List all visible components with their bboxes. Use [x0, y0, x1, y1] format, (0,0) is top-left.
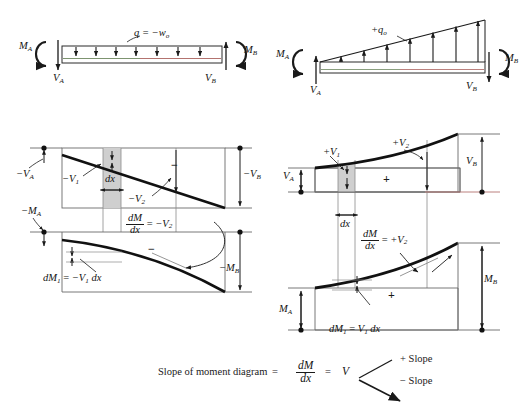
- moment-right-dm1-relation: dM1 = V1 dx: [329, 323, 380, 336]
- shear-left-dx-label: dx: [105, 173, 115, 184]
- shear-right-dx-label: dx: [340, 218, 350, 229]
- beam-left-load-label: q = −wo: [134, 27, 169, 40]
- figure-canvas: q = −wo MA MB VA VB +qo MA MB VA VB −VA …: [0, 0, 523, 419]
- moment-right-slope-relation: dMdx = +V2: [361, 229, 407, 251]
- shear-left-vb-label: −VB: [243, 168, 261, 181]
- shear-left-v2-label: −V2: [128, 193, 145, 206]
- beam-left-shear-b-label: VB: [205, 72, 216, 85]
- shear-left-sign: −: [171, 158, 178, 173]
- caption-plus-slope: + Slope: [400, 353, 432, 364]
- beam-right-group: [293, 20, 509, 84]
- beam-right-moment-b-label: MB: [505, 52, 518, 65]
- beam-left-moment-a-label: MA: [19, 40, 32, 53]
- moment-left-slope-relation: dMdx = −V2: [126, 213, 172, 235]
- caption-equals-1: =: [272, 366, 278, 377]
- beam-right-shear-b-label: VB: [466, 80, 477, 93]
- shear-left-v1-label: −V1: [62, 173, 79, 186]
- caption-result: V: [342, 365, 349, 377]
- caption-equals-2: =: [325, 366, 331, 377]
- moment-right-ma-label: MA: [279, 303, 292, 316]
- shear-right-va-label: VA: [283, 170, 294, 183]
- beam-left-moment-b-label: MB: [244, 44, 257, 57]
- diagram-vector-layer: [0, 0, 523, 419]
- shear-right-vb-label: VB: [466, 155, 477, 168]
- moment-right-sign: +: [388, 288, 395, 303]
- caption-slope-arrows: [359, 360, 400, 401]
- caption-minus-slope: − Slope: [400, 375, 432, 386]
- beam-left-shear-a-label: VA: [53, 72, 64, 85]
- caption-text: Slope of moment diagram: [158, 366, 267, 377]
- shear-right-sign: +: [383, 172, 390, 187]
- moment-left-mb-label: −MB: [219, 262, 239, 275]
- caption-fraction: dMdx: [296, 360, 315, 384]
- shear-right-v2-label: +V2: [392, 137, 409, 150]
- moment-left-sign: −: [148, 242, 155, 257]
- shear-left-va-label: −VA: [16, 168, 34, 181]
- beam-right-load-label: +qo: [371, 24, 387, 37]
- moment-left-ma-label: −MA: [21, 205, 41, 218]
- moment-right-mb-label: MB: [484, 273, 497, 286]
- beam-right-shear-a-label: VA: [310, 84, 321, 97]
- moment-left-dm1-relation: dM1 = −V1 dx: [43, 272, 101, 285]
- beam-right-moment-a-label: MA: [276, 48, 289, 61]
- beam-left-group: [36, 36, 246, 70]
- shear-right-v1-label: +V1: [323, 146, 340, 159]
